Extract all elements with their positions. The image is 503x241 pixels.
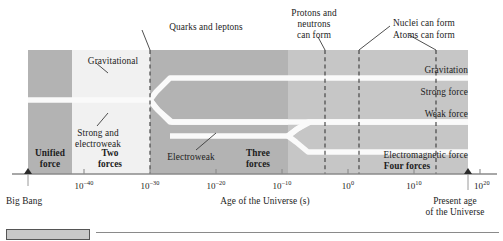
tick-exp-0: –40 [84,179,94,186]
footer-caption-box [6,229,90,240]
era-label-two-forces-line1: Two [101,148,118,158]
era-label-two-forces-line2: forces [98,159,122,169]
tick-base-6: 10 [474,181,483,191]
tick-base-4: 10 [342,181,351,191]
endpoint-label-present-age-line1: Present age [433,196,477,206]
tick-base-3: 10 [273,181,282,191]
leader-quarks-leptons [142,30,150,50]
tick-exp-4: 0 [351,179,354,186]
tick-base-5: 10 [406,181,415,191]
tick-base-0: 10 [75,181,84,191]
axis-tick-label-4: 100 [342,180,354,192]
callout-atoms-can-form: Atoms can form [393,30,455,40]
band-label-weak-force: Weak force [425,109,468,119]
footer-rule [96,232,499,233]
era-label-four-forces: Four forces [384,161,430,171]
callout-protons-neutrons-line1: Protons and [291,8,336,18]
tick-exp-6: 20 [483,179,490,186]
band-label-electromagnetic-force: Electromagnetic force [384,150,468,160]
tick-exp-2: –20 [216,179,226,186]
force-evolution-figure: Quarks and leptons Protons and neutrons … [0,0,503,241]
axis-title: Age of the Universe (s) [220,196,310,206]
tick-base-1: 10 [141,181,150,191]
band-label-gravitational: Gravitational [88,56,138,66]
axis-tick-label-6: 1020 [474,180,490,192]
tick-base-2: 10 [207,181,216,191]
band-label-gravitation: Gravitation [425,65,468,75]
endpoint-label-present-age-line2: of the Universe [426,207,485,217]
tick-exp-5: 10 [415,179,422,186]
leader-nuclei [359,26,390,50]
era-label-unified-line1: Unified [35,148,65,158]
callout-protons-neutrons-line3: can form [297,30,331,40]
axis-tick-label-0: 10–40 [75,180,94,192]
axis-tick-label-2: 10–20 [207,180,226,192]
callout-nuclei-can-form: Nuclei can form [393,18,455,28]
callout-quarks-and-leptons: Quarks and leptons [169,22,243,32]
band-label-strong-and-electroweak-line1: Strong and [77,128,119,138]
tick-exp-1: –30 [150,179,160,186]
band-label-electroweak: Electroweak [167,152,215,162]
era-label-three-forces-line2: forces [246,159,270,169]
axis-tick-label-5: 1010 [406,180,422,192]
tick-exp-3: –10 [282,179,292,186]
band-label-strong-force: Strong force [421,87,468,97]
axis-tick-label-3: 10–10 [273,180,292,192]
era-label-unified-line2: force [40,159,60,169]
axis-tick-label-1: 10–30 [141,180,160,192]
era-label-three-forces-line1: Three [246,148,270,158]
endpoint-label-big-bang: Big Bang [6,196,42,206]
callout-protons-neutrons-line2: neutrons [298,19,331,29]
